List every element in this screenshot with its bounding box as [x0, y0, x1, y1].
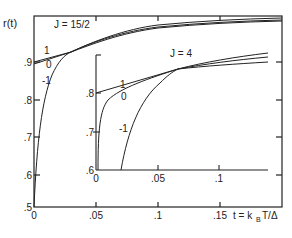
inset-y-ticks: .6 .7 .8: [86, 88, 95, 176]
main-x-ticks: 0 .05 .1 .15: [31, 210, 227, 221]
inset-curves: [96, 53, 268, 170]
svg-text:t = k: t = k: [233, 210, 253, 221]
svg-text:.1: .1: [215, 173, 224, 184]
j-inset-label: J = 4: [170, 48, 192, 59]
svg-text:T/Δ: T/Δ: [262, 210, 278, 221]
svg-text:.9: .9: [24, 57, 33, 68]
chart: r(t) J = 15/2 J = 4 1 0 -1 1 0 -1 .5 .6 …: [0, 0, 292, 238]
svg-text:.1: .1: [154, 210, 163, 221]
inset-curve-0: [98, 57, 268, 170]
svg-text:0: 0: [31, 210, 37, 221]
inset-x-ticks: 0 .05 .1: [93, 173, 223, 184]
inset-curve-label-1: 1: [120, 79, 126, 90]
svg-text:.7: .7: [86, 127, 95, 138]
svg-text:.15: .15: [213, 210, 227, 221]
main-curve-label-1: 1: [44, 45, 50, 56]
inset-plot: [93, 55, 268, 170]
svg-text:.8: .8: [24, 95, 33, 106]
inset-curve-m1: [121, 62, 268, 170]
j-main-label: J = 15/2: [54, 19, 90, 30]
svg-text:.7: .7: [24, 132, 33, 143]
inset-curve-label-0: 0: [121, 91, 127, 102]
x-axis-label: t = k B T/Δ: [233, 210, 278, 223]
svg-text:.05: .05: [89, 210, 103, 221]
svg-text:0: 0: [93, 173, 99, 184]
main-y-ticks: .5 .6 .7 .8 .9: [24, 57, 33, 213]
inset-curve-label-m1: -1: [119, 123, 128, 134]
main-curve-label-m1: -1: [42, 75, 51, 86]
svg-text:.05: .05: [151, 173, 165, 184]
y-axis-label: r(t): [3, 17, 17, 29]
svg-text:.6: .6: [24, 170, 33, 181]
svg-text:.8: .8: [86, 88, 95, 99]
main-curve-label-0: 0: [46, 59, 52, 70]
svg-text:B: B: [256, 216, 261, 223]
